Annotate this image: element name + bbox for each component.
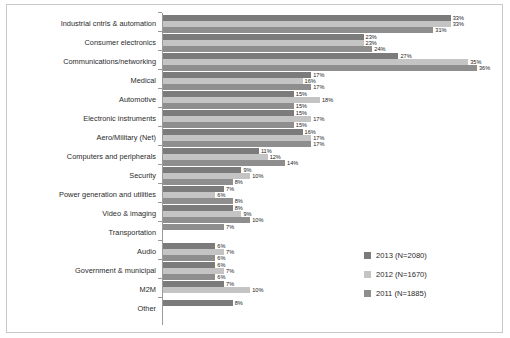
- bar-value-label: 17%: [313, 84, 324, 90]
- bar-value-label: 23%: [366, 40, 377, 46]
- bar-value-label: 10%: [252, 287, 263, 293]
- category-label: Aero/Military (Net): [7, 134, 156, 141]
- bar: [163, 287, 250, 293]
- category-label: Audio: [7, 248, 156, 255]
- bar-value-label: 9%: [243, 211, 251, 217]
- bar-value-label: 15%: [296, 122, 307, 128]
- axis-tick: [158, 278, 162, 279]
- bar: [163, 211, 241, 217]
- bar-value-label: 15%: [296, 103, 307, 109]
- bar-value-label: 36%: [479, 65, 490, 71]
- bar-value-label: 6%: [217, 243, 225, 249]
- axis-tick: [158, 50, 162, 51]
- bar-value-label: 11%: [261, 148, 272, 154]
- category-label: Industrial cntrls & automation: [7, 20, 156, 27]
- category-label: Security: [7, 172, 156, 179]
- category-label: Video & imaging: [7, 210, 156, 217]
- chart-container: Industrial cntrls & automationConsumer e…: [6, 4, 503, 333]
- bar: [163, 160, 285, 166]
- bar: [163, 179, 233, 185]
- bar: [163, 224, 224, 230]
- bar-value-label: 17%: [313, 135, 324, 141]
- axis-tick: [158, 88, 162, 89]
- bar-value-label: 8%: [235, 198, 243, 204]
- bar-value-label: 10%: [252, 217, 263, 223]
- category-label: M2M: [7, 286, 156, 293]
- bar: [163, 34, 364, 40]
- bar-value-label: 27%: [400, 53, 411, 59]
- bar-value-label: 7%: [226, 268, 234, 274]
- bar: [163, 300, 233, 306]
- bar: [163, 72, 311, 78]
- category-label: Automotive: [7, 96, 156, 103]
- bar-value-label: 17%: [313, 72, 324, 78]
- axis-tick: [158, 183, 162, 184]
- bar: [163, 53, 398, 59]
- bar: [163, 255, 215, 261]
- bar: [163, 192, 215, 198]
- axis-tick: [158, 31, 162, 32]
- bar: [163, 65, 477, 71]
- bar-value-label: 23%: [366, 34, 377, 40]
- bar: [163, 46, 372, 52]
- bar: [163, 40, 364, 46]
- legend-item: 2012 (N=1670): [364, 265, 484, 284]
- category-label: Electronic instruments: [7, 115, 156, 122]
- bar-value-label: 6%: [217, 274, 225, 280]
- axis-tick: [158, 126, 162, 127]
- category-label: Transportation: [7, 229, 156, 236]
- chart-legend: 2013 (N=2080)2012 (N=1670)2011 (N=1885): [364, 246, 484, 303]
- category-label: Consumer electronics: [7, 39, 156, 46]
- bar: [163, 97, 320, 103]
- bar-value-label: 33%: [453, 21, 464, 27]
- bar: [163, 78, 303, 84]
- bar-value-label: 35%: [470, 59, 481, 65]
- bar: [163, 173, 250, 179]
- bar-value-label: 16%: [305, 78, 316, 84]
- bar-value-label: 8%: [235, 179, 243, 185]
- category-label: Medical: [7, 77, 156, 84]
- bar: [163, 243, 215, 249]
- bar-value-label: 12%: [270, 154, 281, 160]
- category-label: Computers and peripherals: [7, 153, 156, 160]
- legend-swatch: [364, 252, 371, 259]
- category-label: Other: [7, 305, 156, 312]
- axis-tick: [158, 297, 162, 298]
- bar-value-label: 15%: [296, 110, 307, 116]
- bar-value-label: 7%: [226, 249, 234, 255]
- bar: [163, 84, 311, 90]
- bar-value-label: 9%: [243, 167, 251, 173]
- axis-tick: [158, 107, 162, 108]
- bar: [163, 59, 468, 65]
- bar: [163, 268, 224, 274]
- axis-tick: [158, 164, 162, 165]
- axis-tick: [158, 240, 162, 241]
- bar: [163, 186, 224, 192]
- bar: [163, 148, 259, 154]
- category-label: Government & municipal: [7, 267, 156, 274]
- axis-tick: [158, 12, 162, 13]
- bar-value-label: 33%: [453, 15, 464, 21]
- bar: [163, 110, 294, 116]
- bar-value-label: 6%: [217, 255, 225, 261]
- bar: [163, 262, 215, 268]
- bar-value-label: 8%: [235, 205, 243, 211]
- bar: [163, 217, 250, 223]
- legend-label: 2013 (N=2080): [376, 251, 427, 260]
- bar-value-label: 6%: [217, 192, 225, 198]
- bar: [163, 15, 451, 21]
- bar-value-label: 17%: [313, 141, 324, 147]
- axis-tick: [158, 145, 162, 146]
- bar: [163, 167, 241, 173]
- bar-value-label: 16%: [305, 129, 316, 135]
- axis-tick: [158, 202, 162, 203]
- bar-value-label: 6%: [217, 262, 225, 268]
- bar-value-label: 15%: [296, 91, 307, 97]
- bar: [163, 27, 433, 33]
- bar: [163, 205, 233, 211]
- legend-swatch: [364, 271, 371, 278]
- bar: [163, 122, 294, 128]
- bar-value-label: 24%: [374, 46, 385, 52]
- bar: [163, 249, 224, 255]
- bar: [163, 154, 268, 160]
